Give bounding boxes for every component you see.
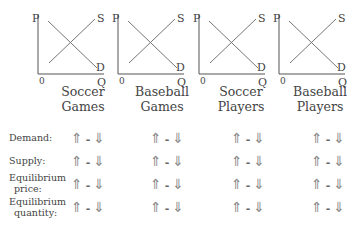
down-arrow-icon[interactable]: ⇓	[253, 153, 265, 169]
down-arrow-icon[interactable]: ⇓	[93, 199, 105, 215]
demand-label: D	[176, 62, 185, 73]
up-arrow-icon[interactable]: ⇑	[150, 130, 162, 146]
down-arrow-icon[interactable]: ⇓	[93, 153, 105, 169]
down-arrow-icon[interactable]: ⇓	[333, 199, 345, 215]
choice-price-baseball-players[interactable]: ⇑-⇓	[311, 177, 345, 191]
demand-label: D	[257, 62, 266, 73]
down-arrow-icon[interactable]: ⇓	[333, 153, 345, 169]
price-axis-label: P	[32, 13, 39, 24]
choice-quantity-soccer-players[interactable]: ⇑-⇓	[231, 200, 265, 214]
down-arrow-icon[interactable]: ⇓	[253, 199, 265, 215]
up-arrow-icon[interactable]: ⇑	[231, 176, 243, 192]
down-arrow-icon[interactable]: ⇓	[333, 130, 345, 146]
down-arrow-icon[interactable]: ⇓	[253, 130, 265, 146]
up-arrow-icon[interactable]: ⇑	[71, 130, 83, 146]
up-arrow-icon[interactable]: ⇑	[150, 199, 162, 215]
choice-quantity-baseball-players[interactable]: ⇑-⇓	[311, 200, 345, 214]
up-arrow-icon[interactable]: ⇑	[150, 153, 162, 169]
down-arrow-icon[interactable]: ⇓	[93, 130, 105, 146]
supply-label: S	[258, 13, 266, 24]
graph-title-baseball-games: Baseball Games	[122, 84, 202, 114]
row-label-supply: Supply:	[9, 155, 45, 166]
graph-baseball-players: P S D 0 Q	[271, 0, 351, 80]
choice-price-soccer-players[interactable]: ⇑-⇓	[231, 177, 265, 191]
graph-baseball-games: P S D 0 Q	[110, 0, 190, 80]
graph-title-soccer-games: Soccer Games	[43, 84, 123, 114]
up-arrow-icon[interactable]: ⇑	[231, 130, 243, 146]
choice-price-soccer-games[interactable]: ⇑-⇓	[71, 177, 105, 191]
supply-label: S	[338, 13, 346, 24]
choice-supply-soccer-players[interactable]: ⇑-⇓	[231, 154, 265, 168]
demand-label: D	[96, 62, 105, 73]
up-arrow-icon[interactable]: ⇑	[231, 153, 243, 169]
up-arrow-icon[interactable]: ⇑	[150, 176, 162, 192]
up-arrow-icon[interactable]: ⇑	[311, 153, 323, 169]
choice-demand-soccer-games[interactable]: ⇑-⇓	[71, 131, 105, 145]
up-arrow-icon[interactable]: ⇑	[311, 130, 323, 146]
choice-price-baseball-games[interactable]: ⇑-⇓	[150, 177, 184, 191]
up-arrow-icon[interactable]: ⇑	[311, 176, 323, 192]
down-arrow-icon[interactable]: ⇓	[253, 176, 265, 192]
up-arrow-icon[interactable]: ⇑	[231, 199, 243, 215]
choice-supply-soccer-games[interactable]: ⇑-⇓	[71, 154, 105, 168]
graph-title-baseball-players: Baseball Players	[280, 84, 355, 114]
choice-quantity-soccer-games[interactable]: ⇑-⇓	[71, 200, 105, 214]
graph-title-soccer-players: Soccer Players	[201, 84, 281, 114]
price-axis-label: P	[273, 13, 280, 24]
price-axis-label: P	[112, 13, 119, 24]
demand-label: D	[337, 62, 346, 73]
supply-label: S	[97, 13, 105, 24]
choice-supply-baseball-games[interactable]: ⇑-⇓	[150, 154, 184, 168]
down-arrow-icon[interactable]: ⇓	[172, 130, 184, 146]
row-label-demand: Demand:	[9, 132, 52, 143]
down-arrow-icon[interactable]: ⇓	[172, 153, 184, 169]
down-arrow-icon[interactable]: ⇓	[172, 199, 184, 215]
row-label-equilibrium-price: Equilibrium price:	[9, 172, 66, 194]
row-label-equilibrium-quantity: Equilibrium quantity:	[9, 196, 66, 218]
choice-demand-soccer-players[interactable]: ⇑-⇓	[231, 131, 265, 145]
up-arrow-icon[interactable]: ⇑	[71, 176, 83, 192]
down-arrow-icon[interactable]: ⇓	[333, 176, 345, 192]
price-axis-label: P	[193, 13, 200, 24]
graph-soccer-games: P S D 0 Q	[30, 0, 110, 80]
down-arrow-icon[interactable]: ⇓	[93, 176, 105, 192]
choice-demand-baseball-players[interactable]: ⇑-⇓	[311, 131, 345, 145]
choice-quantity-baseball-games[interactable]: ⇑-⇓	[150, 200, 184, 214]
choice-supply-baseball-players[interactable]: ⇑-⇓	[311, 154, 345, 168]
up-arrow-icon[interactable]: ⇑	[71, 199, 83, 215]
down-arrow-icon[interactable]: ⇓	[172, 176, 184, 192]
up-arrow-icon[interactable]: ⇑	[311, 199, 323, 215]
graph-soccer-players: P S D 0 Q	[191, 0, 271, 80]
up-arrow-icon[interactable]: ⇑	[71, 153, 83, 169]
choice-demand-baseball-games[interactable]: ⇑-⇓	[150, 131, 184, 145]
supply-label: S	[177, 13, 185, 24]
